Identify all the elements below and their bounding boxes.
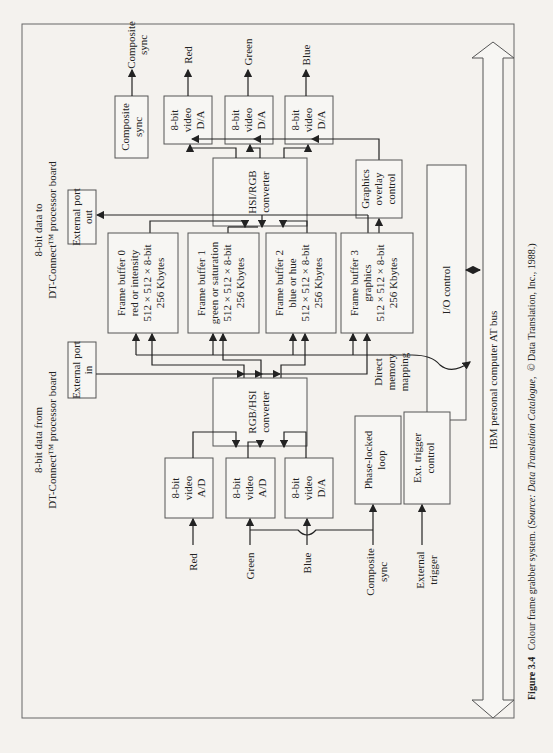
- svg-text:D/A: D/A: [194, 110, 206, 129]
- svg-text:Composite: Composite: [119, 103, 131, 151]
- svg-text:sync: sync: [137, 35, 149, 55]
- svg-text:red or intensity: red or intensity: [128, 249, 140, 316]
- svg-text:External: External: [414, 551, 426, 588]
- svg-text:control: control: [424, 442, 436, 473]
- svg-text:8-bit: 8-bit: [289, 110, 301, 131]
- svg-text:graphics: graphics: [361, 264, 373, 301]
- composite-sync-output-label: Composite sync: [125, 21, 149, 69]
- svg-text:Composite: Composite: [364, 548, 376, 596]
- svg-text:External port: External port: [70, 341, 82, 399]
- frame-buffer-1: Frame buffer 1 green or saturation 512 ×…: [188, 233, 259, 333]
- svg-text:D/A: D/A: [315, 110, 327, 129]
- red-input-label: Red: [187, 553, 199, 571]
- graphics-overlay-control-box: Graphics overlay control: [356, 160, 402, 218]
- svg-text:Graphics: Graphics: [359, 169, 371, 209]
- svg-text:sync: sync: [377, 562, 389, 582]
- svg-text:loop: loop: [375, 450, 387, 470]
- at-bus-label: IBM personal computer AT bus: [487, 311, 499, 450]
- svg-text:mapping: mapping: [398, 352, 410, 391]
- green-output-label: Green: [242, 38, 254, 65]
- svg-text:video: video: [242, 107, 254, 132]
- ext-trigger-control-box: Ext. trigger control: [404, 412, 450, 504]
- svg-text:256 Kbytes: 256 Kbytes: [387, 258, 399, 308]
- svg-text:DT-Connect™ processor board: DT-Connect™ processor board: [46, 371, 58, 509]
- svg-text:video: video: [302, 475, 314, 500]
- svg-text:converter: converter: [259, 171, 271, 213]
- svg-text:Phase-locked: Phase-locked: [362, 430, 374, 489]
- svg-text:256 Kbytes: 256 Kbytes: [154, 258, 166, 308]
- red-ad-box: 8-bit video A/D: [165, 458, 213, 518]
- svg-text:8-bit: 8-bit: [168, 110, 180, 131]
- svg-text:Frame buffer 1: Frame buffer 1: [195, 250, 207, 316]
- io-control-box: I/O control: [427, 165, 466, 420]
- svg-text:trigger: trigger: [427, 555, 439, 585]
- red-da-box: 8-bit video D/A: [164, 96, 212, 144]
- svg-text:overlay: overlay: [372, 172, 384, 205]
- svg-text:Frame buffer 2: Frame buffer 2: [273, 250, 285, 316]
- svg-text:Frame buffer 0: Frame buffer 0: [115, 250, 127, 316]
- phase-locked-loop-box: Phase-locked loop: [355, 416, 401, 504]
- composite-sync-input-label: Composite sync: [364, 548, 389, 596]
- svg-text:8-bit: 8-bit: [230, 478, 242, 499]
- blue-da-box: 8-bit video D/A: [285, 96, 333, 144]
- rgb-hsi-converter-box: RGB/HSI converter: [213, 378, 307, 446]
- svg-text:512 × 512 × 8-bit: 512 × 512 × 8-bit: [221, 244, 233, 321]
- label-data-to: 8-bit data to DT-Connect™ processor boar…: [32, 161, 58, 299]
- green-ad-box: 8-bit video A/D: [226, 458, 275, 518]
- direct-memory-mapping-label: Direct memory mapping: [372, 352, 410, 391]
- svg-text:512 × 512 × 8-bit: 512 × 512 × 8-bit: [299, 244, 311, 321]
- svg-text:512 × 512 × 8-bit: 512 × 512 × 8-bit: [374, 244, 386, 321]
- svg-text:256 Kbytes: 256 Kbytes: [312, 258, 324, 308]
- svg-text:8-bit: 8-bit: [169, 478, 181, 499]
- svg-text:green or saturation: green or saturation: [208, 241, 220, 324]
- svg-text:256 Kbytes: 256 Kbytes: [234, 258, 246, 308]
- external-trigger-input-label: External trigger: [414, 551, 439, 588]
- svg-text:sync: sync: [132, 117, 144, 137]
- svg-text:control: control: [385, 173, 397, 204]
- svg-text:converter: converter: [259, 391, 271, 433]
- composite-sync-box: Composite sync: [115, 96, 148, 158]
- frame-buffer-2: Frame buffer 2 blue or hue 512 × 512 × 8…: [266, 233, 336, 333]
- green-input-label: Green: [244, 552, 256, 579]
- external-port-in-box: External port in: [68, 341, 96, 399]
- svg-text:A/D: A/D: [195, 478, 207, 497]
- svg-text:I/O control: I/O control: [440, 266, 452, 315]
- figure-caption: Figure 3.4 Colour frame grabber system. …: [526, 243, 538, 700]
- svg-text:8-bit: 8-bit: [289, 478, 301, 499]
- svg-text:video: video: [243, 475, 255, 500]
- svg-text:memory: memory: [385, 353, 397, 390]
- svg-text:512 × 512 × 8-bit: 512 × 512 × 8-bit: [141, 244, 153, 321]
- svg-text:8-bit: 8-bit: [229, 110, 241, 131]
- frame-buffer-0: Frame buffer 0 red or intensity 512 × 51…: [108, 233, 178, 333]
- green-da-box: 8-bit video D/A: [225, 96, 273, 144]
- red-output-label: Red: [182, 46, 194, 64]
- blue-input-label: Blue: [301, 552, 313, 573]
- svg-text:Ext. trigger: Ext. trigger: [411, 433, 423, 483]
- svg-text:Frame buffer 3: Frame buffer 3: [348, 250, 360, 316]
- svg-text:blue or hue: blue or hue: [286, 258, 298, 308]
- svg-text:in: in: [82, 365, 94, 374]
- svg-text:Direct: Direct: [372, 358, 384, 385]
- svg-text:8-bit data from: 8-bit data from: [32, 407, 44, 473]
- svg-text:External port: External port: [70, 188, 82, 246]
- svg-text:HSI/RGB: HSI/RGB: [246, 170, 258, 213]
- svg-text:out: out: [82, 210, 94, 224]
- blue-da-input-box: 8-bit video D/A: [285, 458, 333, 518]
- svg-text:8-bit data to: 8-bit data to: [32, 203, 44, 257]
- label-data-from: 8-bit data from DT-Connect™ processor bo…: [32, 371, 58, 509]
- svg-text:video: video: [182, 475, 194, 500]
- svg-text:RGB/HSI: RGB/HSI: [246, 390, 258, 434]
- svg-text:A/D: A/D: [256, 478, 268, 497]
- svg-text:video: video: [302, 107, 314, 132]
- blue-output-label: Blue: [300, 44, 312, 65]
- svg-text:Composite: Composite: [125, 21, 137, 69]
- svg-text:D/A: D/A: [255, 110, 267, 129]
- external-port-out-box: External port out: [68, 188, 96, 246]
- hsi-rgb-converter-box: HSI/RGB converter: [213, 158, 307, 226]
- frame-buffer-3: Frame buffer 3 graphics 512 × 512 × 8-bi…: [341, 233, 413, 333]
- svg-text:video: video: [181, 107, 193, 132]
- frame-grabber-diagram: 8-bit data to DT-Connect™ processor boar…: [0, 0, 553, 753]
- svg-text:DT-Connect™ processor board: DT-Connect™ processor board: [46, 161, 58, 299]
- svg-text:D/A: D/A: [315, 478, 327, 497]
